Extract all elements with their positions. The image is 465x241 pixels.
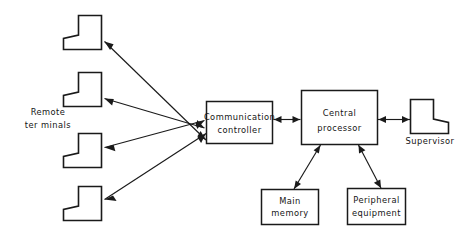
central-processor-label-line1: Central [323,108,356,118]
central-processor-label-line2: processor [317,123,362,133]
link-processor-to-peripheral-equipment [359,145,382,188]
peripheral-equipment-label-line1: Peripheral [353,195,399,205]
block-diagram-canvas: Communication controller Central process… [0,0,465,241]
main-memory-label-line1: Main [279,196,301,206]
node-communication-controller: Communication controller [204,102,275,144]
remote-terminal-4 [64,187,102,221]
link-processor-to-main-memory [294,145,321,189]
node-main-memory: Main memory [262,190,319,225]
link-controller-to-processor [274,116,301,123]
remote-terminal-1 [64,16,102,50]
remote-terminal-3 [64,134,102,168]
communication-controller-label-line2: controller [217,125,261,135]
link-terminal3-to-controller [105,121,205,152]
link-processor-to-supervisor [378,116,410,123]
link-terminal1-to-controller [105,42,207,141]
remote-terminals-label-line2: ter minals [25,120,71,130]
supervisor-terminal [411,100,449,134]
remote-terminals-label: Remote ter minals [25,107,71,130]
supervisor-label-text: Supervisor [406,136,455,146]
main-memory-label-line2: memory [271,208,308,218]
link-terminal2-to-controller [105,99,205,129]
peripheral-equipment-label-line2: equipment [352,208,401,218]
diagram-svg: Communication controller Central process… [0,0,465,241]
remote-terminal-2 [64,73,102,107]
supervisor-label: Supervisor [406,136,455,146]
node-central-processor: Central processor [302,91,378,145]
remote-terminals-label-line1: Remote [31,107,66,117]
node-peripheral-equipment: Peripheral equipment [348,189,406,225]
communication-controller-label-line1: Communication [204,112,275,122]
